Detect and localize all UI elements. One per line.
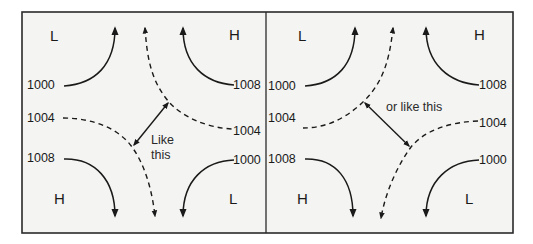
- high-center-label: H: [229, 26, 240, 43]
- isobar-label: 1004: [233, 124, 261, 138]
- isobar-label: 1004: [479, 116, 507, 130]
- high-center-label: H: [474, 26, 485, 43]
- high-center-label: H: [297, 190, 308, 207]
- low-center-label: L: [50, 27, 58, 44]
- isobar-label: 1008: [479, 78, 507, 92]
- isobar-label: 1000: [479, 153, 507, 167]
- isobar-label: 1008: [27, 151, 55, 165]
- high-center-label: H: [54, 190, 65, 207]
- isobar-label: 1000: [268, 79, 296, 93]
- isobar-label: 1008: [268, 152, 296, 166]
- annotation-text: this: [151, 148, 170, 162]
- annotation-text: or like this: [386, 100, 442, 114]
- isobar-label: 1000: [27, 78, 55, 92]
- low-center-label: L: [229, 190, 237, 207]
- annotation-text: Like: [151, 133, 174, 147]
- isobar-label: 1008: [233, 78, 261, 92]
- low-center-label: L: [298, 27, 306, 44]
- col-isobar-diagram: L H H L 1000 1004 1008 1008 1004 1000 Li…: [0, 0, 533, 244]
- isobar-label: 1004: [268, 111, 296, 125]
- isobar-label: 1004: [27, 111, 55, 125]
- isobar-label: 1000: [233, 153, 261, 167]
- low-center-label: L: [465, 190, 473, 207]
